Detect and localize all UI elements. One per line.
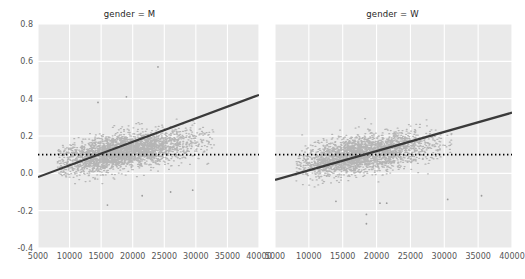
x-tick-label: 10000 [296,252,321,261]
x-tick-label: 35000 [465,252,490,261]
scatter-points [296,119,483,225]
panel-title: gender = W [263,9,522,19]
x-tick-label: 20000 [364,252,389,261]
plot-area [275,24,512,248]
x-tick-label: 15000 [330,252,355,261]
x-tick-label: 25000 [398,252,423,261]
x-tick-label: 5000 [265,252,285,261]
x-tick-label: 40000 [499,252,524,261]
x-tick-label: 30000 [432,252,457,261]
